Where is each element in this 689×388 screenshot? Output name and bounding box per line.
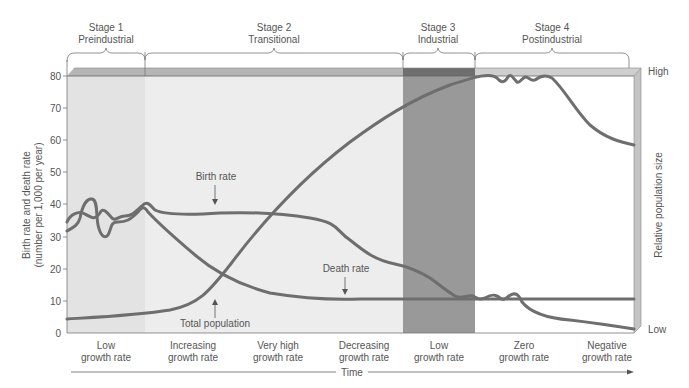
stage1-band — [67, 76, 145, 333]
svg-text:60: 60 — [50, 135, 62, 146]
svg-text:Low: Low — [430, 340, 449, 351]
y-axis-title-line1: Birth rate and death rate — [21, 151, 32, 259]
svg-text:10: 10 — [50, 296, 62, 307]
stage1-title: Stage 1 — [89, 22, 124, 33]
svg-text:Increasing: Increasing — [170, 340, 216, 351]
stage3-subtitle: Industrial — [418, 34, 459, 45]
svg-text:growth rate: growth rate — [499, 352, 549, 363]
y2-axis-title: Relative population size — [653, 152, 664, 258]
y-axis-title-line2: (number per 1,000 per year) — [33, 142, 44, 267]
svg-text:Zero: Zero — [514, 340, 535, 351]
stage-braces — [67, 48, 629, 68]
svg-text:70: 70 — [50, 103, 62, 114]
svg-text:50: 50 — [50, 167, 62, 178]
stage3-title: Stage 3 — [421, 22, 456, 33]
svg-text:growth rate: growth rate — [414, 352, 464, 363]
top-slab-stage1-2 — [67, 68, 403, 76]
stage2-title: Stage 2 — [257, 22, 292, 33]
stage4-subtitle: Postindustrial — [522, 34, 582, 45]
y2-high-label: High — [648, 66, 669, 77]
stage4-title: Stage 4 — [535, 22, 570, 33]
svg-text:40: 40 — [50, 199, 62, 210]
y2-low-label: Low — [648, 324, 667, 335]
demographic-transition-chart: Stage 1 Preindustrial Stage 2 Transition… — [0, 0, 689, 388]
total-population-label: Total population — [180, 318, 250, 329]
svg-text:growth rate: growth rate — [81, 352, 131, 363]
svg-text:growth rate: growth rate — [168, 352, 218, 363]
svg-text:0: 0 — [55, 328, 61, 339]
death-rate-label: Death rate — [323, 263, 370, 274]
y-tick-labels: 80 70 60 50 40 30 20 10 0 — [50, 71, 62, 339]
time-arrow-head-icon — [627, 370, 634, 375]
svg-text:80: 80 — [50, 71, 62, 82]
top-slab-stage3 — [403, 68, 475, 76]
y-ticks — [63, 76, 67, 301]
stage2-subtitle: Transitional — [248, 34, 299, 45]
growth-rate-labels: Lowgrowth rate Increasinggrowth rate Ver… — [81, 340, 632, 363]
svg-text:30: 30 — [50, 232, 62, 243]
svg-text:Decreasing: Decreasing — [339, 340, 390, 351]
time-label: Time — [341, 367, 363, 378]
svg-text:Low: Low — [97, 340, 116, 351]
svg-text:growth rate: growth rate — [582, 352, 632, 363]
birth-rate-label: Birth rate — [196, 171, 237, 182]
stage3-band — [403, 76, 475, 333]
stage4-band — [475, 76, 634, 333]
svg-text:Negative: Negative — [587, 340, 627, 351]
right-slab — [634, 68, 641, 333]
svg-text:Very high: Very high — [257, 340, 299, 351]
svg-text:growth rate: growth rate — [339, 352, 389, 363]
top-slab-stage4 — [475, 68, 641, 76]
svg-text:20: 20 — [50, 264, 62, 275]
stage1-subtitle: Preindustrial — [78, 34, 134, 45]
svg-text:growth rate: growth rate — [253, 352, 303, 363]
